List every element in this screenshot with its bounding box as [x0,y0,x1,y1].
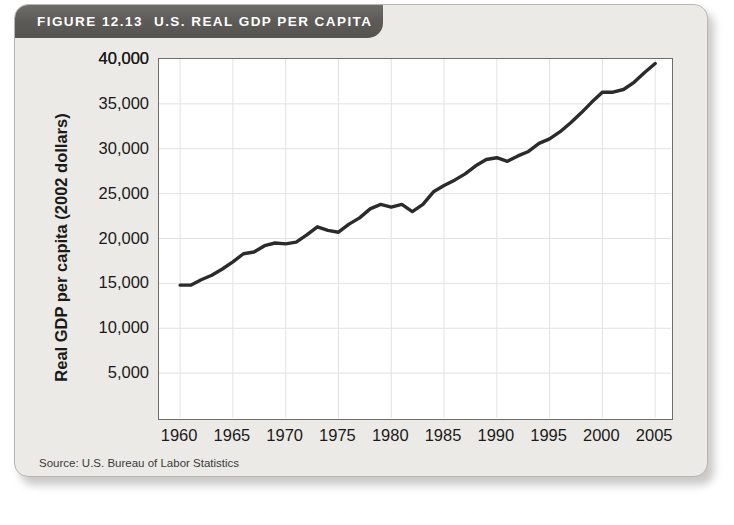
plot-frame [158,58,673,420]
y-tick-label: 40,000 [29,49,149,68]
figure-number-label: FIGURE 12.13 [37,14,143,29]
y-tick-label: 35,000 [29,93,149,112]
figure-title-banner: FIGURE 12.13U.S. REAL GDP PER CAPITA [15,5,383,38]
gdp-per-capita-line [180,63,655,285]
x-tick-label: 2005 [614,426,694,445]
y-tick-label: 15,000 [29,273,149,292]
y-tick-label: 40,000 [29,49,149,68]
figure-title-text: FIGURE 12.13U.S. REAL GDP PER CAPITA [15,14,373,29]
y-tick-label: 20,000 [29,228,149,247]
chart-area: Real GDP per capita (2002 dollars) 5,000… [15,38,707,476]
y-axis-title: Real GDP per capita (2002 dollars) [52,83,71,413]
figure-card: FIGURE 12.13U.S. REAL GDP PER CAPITA Rea… [14,4,708,477]
y-tick-label: 5,000 [29,363,149,382]
gridlines [159,59,671,418]
y-tick-label: 30,000 [29,138,149,157]
gdp-line-chart [159,59,671,418]
figure-title-label: U.S. REAL GDP PER CAPITA [154,14,373,29]
y-tick-label: 10,000 [29,318,149,337]
source-note: Source: U.S. Bureau of Labor Statistics [39,457,239,469]
y-tick-label: 25,000 [29,183,149,202]
